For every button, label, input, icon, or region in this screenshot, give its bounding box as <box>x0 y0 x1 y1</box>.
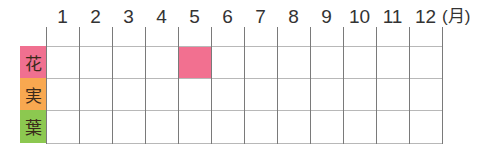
grid-vline <box>343 27 344 144</box>
grid-vline <box>145 27 146 144</box>
month-header-4: 4 <box>145 6 178 28</box>
highlight-cell-flower-5 <box>178 46 211 78</box>
calendar-grid: 1 2 3 4 5 6 7 8 9 10 11 12 (月) 花 実 葉 <box>0 0 479 161</box>
month-header-1: 1 <box>46 6 79 28</box>
month-header-3: 3 <box>112 6 145 28</box>
grid-vline <box>310 27 311 144</box>
grid-vline <box>409 27 410 144</box>
month-header-2: 2 <box>79 6 112 28</box>
month-unit-label: (月) <box>442 6 470 28</box>
grid-vline <box>112 27 113 144</box>
grid-vline <box>376 27 377 144</box>
grid-vline <box>46 27 47 144</box>
grid-vline <box>178 27 179 144</box>
month-header-11: 11 <box>376 6 409 28</box>
row-label-fruit: 実 <box>20 78 46 110</box>
month-header-5: 5 <box>178 6 211 28</box>
row-label-leaf: 葉 <box>20 110 46 143</box>
month-header-6: 6 <box>211 6 244 28</box>
month-header-8: 8 <box>277 6 310 28</box>
grid-vline <box>442 27 443 144</box>
month-header-7: 7 <box>244 6 277 28</box>
grid-vline <box>211 27 212 144</box>
row-label-flower: 花 <box>20 46 46 78</box>
grid-vline <box>244 27 245 144</box>
month-header-9: 9 <box>310 6 343 28</box>
grid-vline <box>277 27 278 144</box>
grid-vline <box>79 27 80 144</box>
month-header-10: 10 <box>343 6 376 28</box>
month-header-12: 12 <box>409 6 442 28</box>
